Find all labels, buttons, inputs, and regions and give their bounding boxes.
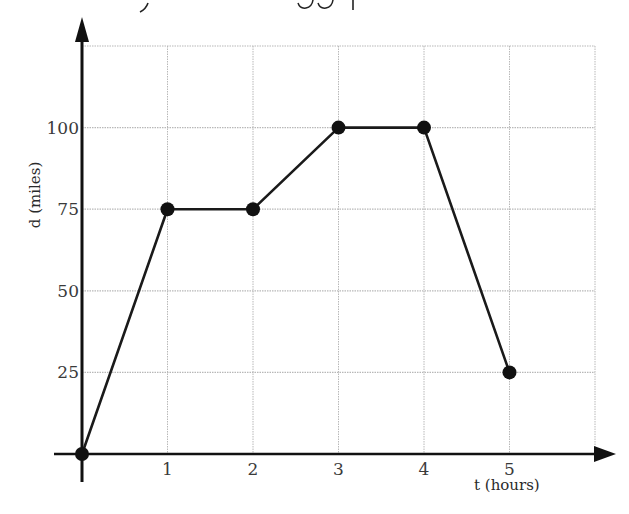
y-axis-arrow-icon — [75, 17, 89, 42]
data-point — [503, 365, 517, 379]
data-point — [332, 121, 346, 135]
distance-time-chart: 12345255075100 t (hours) d (miles) — [0, 0, 629, 514]
x-tick-label: 3 — [333, 459, 344, 479]
top-text-fragments — [140, 0, 353, 12]
data-point — [417, 121, 431, 135]
y-tick-label: 25 — [57, 362, 79, 382]
x-axis-arrow-icon — [594, 446, 616, 462]
data-point — [75, 447, 89, 461]
x-tick-label: 2 — [248, 459, 259, 479]
data-point — [246, 202, 260, 216]
y-axis-label: d (miles) — [26, 162, 44, 228]
y-tick-label: 100 — [47, 118, 79, 138]
grid — [82, 46, 595, 454]
tick-labels: 12345255075100 — [47, 118, 515, 479]
x-tick-label: 1 — [162, 459, 173, 479]
x-tick-label: 4 — [419, 459, 430, 479]
x-axis-label: t (hours) — [474, 476, 540, 494]
data-point — [161, 202, 175, 216]
y-tick-label: 50 — [57, 281, 79, 301]
y-tick-label: 75 — [57, 199, 79, 219]
axes — [54, 17, 616, 482]
